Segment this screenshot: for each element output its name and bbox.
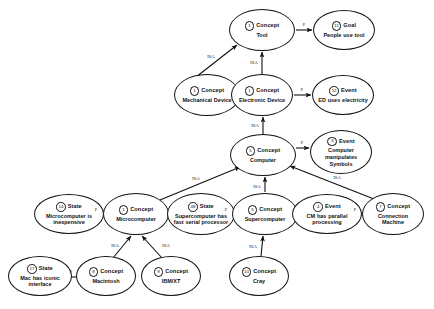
- node-label: Microcomputer: [112, 216, 160, 223]
- edge-ibm_xt-to-microcomputer: [142, 236, 162, 258]
- edge-label-supercomputer-to-computer: ISA: [253, 184, 260, 189]
- node-microcomputer[interactable]: 1ConceptMicrocomputer: [103, 193, 169, 235]
- edge-label-connection_machine-to-event_cm_parallel_processing: P: [354, 207, 356, 212]
- node-label: Macintosh: [88, 278, 123, 285]
- node-type-label: Event: [325, 204, 341, 210]
- edge-label-ibm_xt-to-microcomputer: ISA: [162, 243, 169, 248]
- node-header: 5Concept: [248, 205, 283, 215]
- node-index-badge-icon: 17: [27, 264, 37, 274]
- node-type-label: Concept: [253, 269, 276, 275]
- node-index-badge-icon: 7: [376, 202, 386, 212]
- node-index-badge-icon: 11: [332, 21, 342, 31]
- node-label: Computer manipulates Symbols: [311, 147, 371, 167]
- node-header: 7Concept: [376, 202, 411, 212]
- node-header: 8Concept: [89, 267, 124, 277]
- node-event_ed_uses_electricity[interactable]: 12EventED uses electricity: [312, 75, 374, 115]
- node-type-label: Concept: [130, 207, 153, 213]
- edge-label-supercomputer-to-state_supercomputer_fast_serial: P: [225, 207, 227, 212]
- node-index-badge-icon: 9: [154, 267, 164, 277]
- node-label: Mac has iconic interface: [9, 275, 71, 288]
- node-index-badge-icon: 8: [89, 267, 99, 277]
- node-index-badge-icon: 1: [245, 21, 255, 31]
- node-state_mac_iconic_interface[interactable]: 17StateMac has iconic interface: [8, 256, 72, 296]
- node-header: 5Concept: [246, 146, 281, 156]
- node-type-label: State: [200, 204, 214, 210]
- node-type-label: Event: [339, 139, 355, 145]
- edge-label-electronic_device-to-tool: ISA: [250, 60, 257, 65]
- edge-label-tool-to-goal_people_use_tool: P: [303, 22, 305, 27]
- node-label: Computer: [246, 157, 280, 164]
- node-type-label: Event: [341, 88, 357, 94]
- edge-cray-to-supercomputer: [261, 236, 263, 256]
- edge-label-microcomputer-to-computer: ISA: [192, 176, 199, 181]
- node-index-badge-icon: 5: [248, 205, 258, 215]
- node-header: 10Concept: [242, 267, 277, 277]
- node-type-label: Concept: [100, 269, 123, 275]
- node-index-badge-icon: 4: [313, 202, 323, 212]
- node-label: Supercomputer: [241, 216, 290, 223]
- node-label: Connection Machine: [363, 213, 423, 226]
- node-label: Supercomputer has fast serial processor: [168, 213, 234, 226]
- node-label: IBM/XT: [158, 278, 185, 285]
- node-header: 48State: [188, 202, 214, 212]
- node-event_computer_manipulates_symbols[interactable]: 3EventComputer manipulates Symbols: [310, 130, 372, 174]
- node-type-label: Concept: [257, 148, 280, 154]
- node-supercomputer[interactable]: 5ConceptSupercomputer: [232, 193, 298, 235]
- edge-label-macintosh-to-microcomputer: ISA: [111, 243, 118, 248]
- node-type-label: Concept: [259, 207, 282, 213]
- node-header: 1Concept: [245, 86, 280, 96]
- node-macintosh[interactable]: 8ConceptMacintosh: [76, 256, 136, 296]
- node-index-badge-icon: 5: [246, 146, 256, 156]
- edge-label-macintosh-to-state_mac_iconic_interface: P: [70, 269, 72, 274]
- node-index-badge-icon: 10: [242, 267, 252, 277]
- node-state_microcomputer_inexpensive[interactable]: 14StateMicrocomputer is inexpensive: [34, 194, 104, 234]
- node-header: 4Event: [313, 202, 340, 212]
- node-label: ED uses electricity: [314, 97, 372, 104]
- node-state_supercomputer_fast_serial[interactable]: 48StateSupercomputer has fast serial pro…: [167, 193, 235, 235]
- node-label: Mechanical Device: [178, 97, 235, 104]
- node-type-label: State: [68, 204, 82, 210]
- node-type-label: Concept: [165, 269, 188, 275]
- node-type-label: Concept: [201, 88, 224, 94]
- node-label: CM has parallel processing: [293, 213, 361, 226]
- node-index-badge-icon: 12: [329, 86, 339, 96]
- node-electronic_device[interactable]: 1ConceptElectronic Device: [231, 74, 293, 116]
- edge-label-microcomputer-to-state_microcomputer_inexpensive: P: [95, 207, 97, 212]
- node-header: 14State: [56, 202, 82, 212]
- node-label: Electronic Device: [235, 97, 289, 104]
- node-type-label: Concept: [256, 88, 279, 94]
- node-header: 12Event: [329, 86, 356, 96]
- node-header: 3Event: [327, 137, 354, 147]
- node-ibm_xt[interactable]: 9ConceptIBM/XT: [141, 256, 201, 296]
- edge-label-computer-to-event_computer_manipulates_symbols: P: [301, 140, 303, 145]
- node-type-label: State: [39, 266, 53, 272]
- node-index-badge-icon: 1: [119, 205, 129, 215]
- node-connection_machine[interactable]: 7ConceptConnection Machine: [362, 193, 424, 235]
- node-index-badge-icon: 1: [245, 86, 255, 96]
- node-label: Cray: [249, 278, 269, 285]
- node-index-badge-icon: 3: [327, 137, 337, 147]
- edge-label-computer-to-electronic_device: ISA: [251, 123, 258, 128]
- node-computer[interactable]: 5ConceptComputer: [230, 134, 296, 176]
- node-label: Tool: [252, 32, 271, 39]
- node-index-badge-icon: 1: [190, 86, 200, 96]
- edge-label-mechanical_device-to-tool: ISA: [207, 54, 214, 59]
- node-index-badge-icon: 48: [188, 202, 198, 212]
- node-label: Microcomputer is inexpensive: [35, 213, 103, 226]
- edge-mechanical_device-to-tool: [196, 45, 237, 77]
- node-label: People use tool: [319, 32, 368, 39]
- node-header: 11Goal: [332, 21, 356, 31]
- edge-label-connection_machine-to-computer: ISA: [333, 175, 340, 180]
- node-tool[interactable]: 1ConceptTool: [229, 9, 295, 51]
- edge-label-cray-to-supercomputer: ISA: [249, 244, 256, 249]
- node-index-badge-icon: 14: [56, 202, 66, 212]
- node-header: 9Concept: [154, 267, 189, 277]
- node-header: 17State: [27, 264, 53, 274]
- node-type-label: Goal: [343, 23, 356, 29]
- node-cray[interactable]: 10ConceptCray: [229, 256, 289, 296]
- node-goal_people_use_tool[interactable]: 11GoalPeople use tool: [313, 10, 375, 50]
- edge-label-electronic_device-to-event_ed_uses_electricity: P: [301, 87, 303, 92]
- node-header: 1Concept: [119, 205, 154, 215]
- node-event_cm_parallel_processing[interactable]: 4EventCM has parallel processing: [292, 194, 362, 234]
- diagram-canvas: 1ConceptTool11GoalPeople use tool1Concep…: [0, 0, 434, 309]
